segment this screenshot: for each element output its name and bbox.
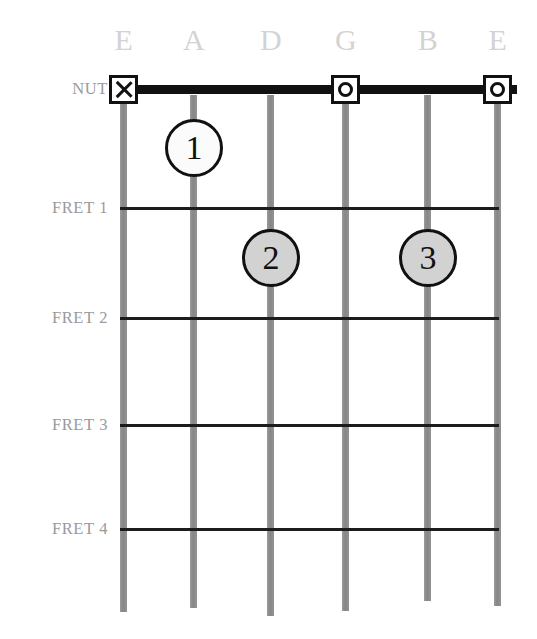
string-label-e-high: E bbox=[468, 23, 528, 57]
open-string-marker-e-high[interactable] bbox=[483, 75, 512, 104]
fret-line-2 bbox=[120, 317, 499, 320]
chord-diagram: E A D G B E NUT FRET 1 FRET 2 FRET 3 FRE… bbox=[0, 0, 537, 639]
row-label-nut: NUT bbox=[0, 80, 108, 98]
open-circle-icon bbox=[490, 82, 505, 97]
finger-dot-1[interactable]: 1 bbox=[165, 119, 223, 177]
string-b bbox=[424, 95, 431, 601]
fret-line-4 bbox=[120, 528, 499, 531]
open-circle-icon bbox=[338, 82, 353, 97]
finger-dot-1-number: 1 bbox=[186, 131, 203, 165]
fret-line-1 bbox=[120, 207, 499, 210]
open-string-marker-g[interactable] bbox=[331, 75, 360, 104]
string-e-low bbox=[120, 89, 127, 612]
finger-dot-3-number: 3 bbox=[420, 241, 437, 275]
string-d bbox=[267, 95, 274, 616]
string-label-b: B bbox=[398, 23, 458, 57]
x-mark-icon bbox=[114, 80, 133, 99]
muted-string-marker-e-low[interactable] bbox=[109, 75, 138, 104]
row-label-fret-4: FRET 4 bbox=[0, 520, 108, 538]
string-label-a: A bbox=[164, 23, 224, 57]
row-label-fret-3: FRET 3 bbox=[0, 416, 108, 434]
finger-dot-3[interactable]: 3 bbox=[399, 229, 457, 287]
string-label-g: G bbox=[316, 23, 376, 57]
nut-bar bbox=[112, 85, 517, 94]
finger-dot-2[interactable]: 2 bbox=[242, 229, 300, 287]
string-g bbox=[342, 89, 349, 611]
row-label-fret-1: FRET 1 bbox=[0, 199, 108, 217]
fret-line-3 bbox=[120, 424, 499, 427]
row-label-fret-2: FRET 2 bbox=[0, 309, 108, 327]
finger-dot-2-number: 2 bbox=[263, 241, 280, 275]
string-label-e-low: E bbox=[94, 23, 154, 57]
string-label-d: D bbox=[241, 23, 301, 57]
